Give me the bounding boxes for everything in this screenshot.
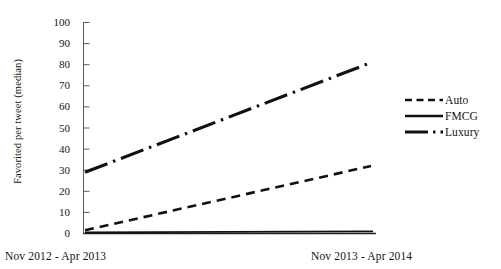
legend: Auto FMCG Luxury bbox=[404, 92, 501, 140]
legend-key-dashdot-icon bbox=[404, 126, 444, 138]
legend-label-luxury: Luxury bbox=[445, 126, 479, 138]
legend-key-solid-icon bbox=[404, 110, 444, 122]
y-tick-label: 40 bbox=[28, 144, 70, 155]
legend-key-dashed-icon bbox=[404, 94, 444, 106]
y-axis-title: Favorited per tweet (median) bbox=[12, 17, 23, 227]
y-tick-label: 70 bbox=[28, 80, 70, 91]
series-line-fmcg bbox=[85, 231, 373, 232]
y-tick-label: 50 bbox=[28, 123, 70, 134]
x-tick-label-right: Nov 2013 - Apr 2014 bbox=[311, 250, 412, 262]
y-tick-label: 10 bbox=[28, 207, 70, 218]
series-line-luxury bbox=[85, 63, 371, 173]
legend-label-fmcg: FMCG bbox=[445, 110, 478, 122]
y-tick-label: 100 bbox=[28, 17, 70, 28]
chart-container: Favorited per tweet (median) 100 90 80 7… bbox=[0, 0, 501, 269]
legend-item-fmcg: FMCG bbox=[404, 108, 501, 124]
y-tick-label: 80 bbox=[28, 59, 70, 70]
series-line-auto bbox=[85, 166, 371, 230]
y-tick-label: 30 bbox=[28, 165, 70, 176]
legend-item-luxury: Luxury bbox=[404, 124, 501, 140]
y-tick-label: 20 bbox=[28, 186, 70, 197]
y-axis-ticks bbox=[84, 23, 90, 234]
legend-label-auto: Auto bbox=[445, 94, 468, 106]
y-tick-label: 90 bbox=[28, 38, 70, 49]
legend-item-auto: Auto bbox=[404, 92, 501, 108]
x-tick-label-left: Nov 2012 - Apr 2013 bbox=[5, 250, 106, 262]
y-tick-label: 60 bbox=[28, 101, 70, 112]
y-tick-label: 0 bbox=[28, 228, 70, 239]
